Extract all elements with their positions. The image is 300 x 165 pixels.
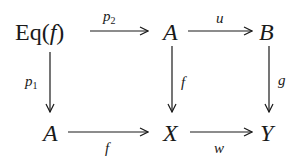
node-x: X bbox=[163, 121, 178, 145]
label-f-vertical: f bbox=[181, 75, 185, 90]
label-p1: p1 bbox=[25, 74, 38, 91]
label-f-horizontal: f bbox=[105, 141, 109, 156]
node-eq-suffix: ) bbox=[56, 19, 64, 45]
node-eq-f: Eq(f) bbox=[15, 20, 64, 44]
label-p1-letter: p bbox=[25, 73, 33, 89]
label-p2: p2 bbox=[103, 9, 116, 26]
node-b: B bbox=[259, 20, 274, 44]
node-a-top: A bbox=[163, 20, 178, 44]
node-a-bottom: A bbox=[43, 121, 58, 145]
label-p2-letter: p bbox=[103, 8, 111, 24]
label-p1-sub: 1 bbox=[33, 80, 38, 91]
node-y: Y bbox=[260, 121, 273, 145]
label-p2-sub: 2 bbox=[111, 15, 116, 26]
node-eq-prefix: Eq( bbox=[15, 19, 50, 45]
label-g: g bbox=[278, 73, 286, 88]
commutative-diagram: Eq(f) A B A X Y p2 u p1 f g f w bbox=[0, 0, 300, 165]
label-u: u bbox=[216, 11, 224, 26]
label-w: w bbox=[214, 141, 224, 156]
